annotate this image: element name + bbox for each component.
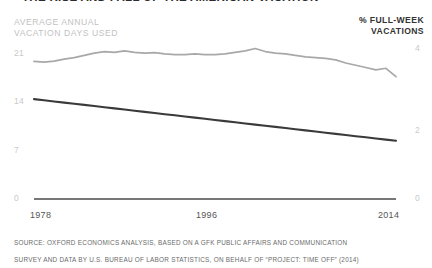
- source-note: SOURCE: OXFORD ECONOMICS ANALYSIS, BASED…: [14, 230, 359, 268]
- full-week-vacations-line: [34, 49, 396, 77]
- source-line-1: SOURCE: OXFORD ECONOMICS ANALYSIS, BASED…: [14, 239, 359, 248]
- vacation-days-used-line: [34, 99, 396, 141]
- source-line-2: SURVEY AND DATA BY U.S. BUREAU OF LABOR …: [14, 256, 359, 265]
